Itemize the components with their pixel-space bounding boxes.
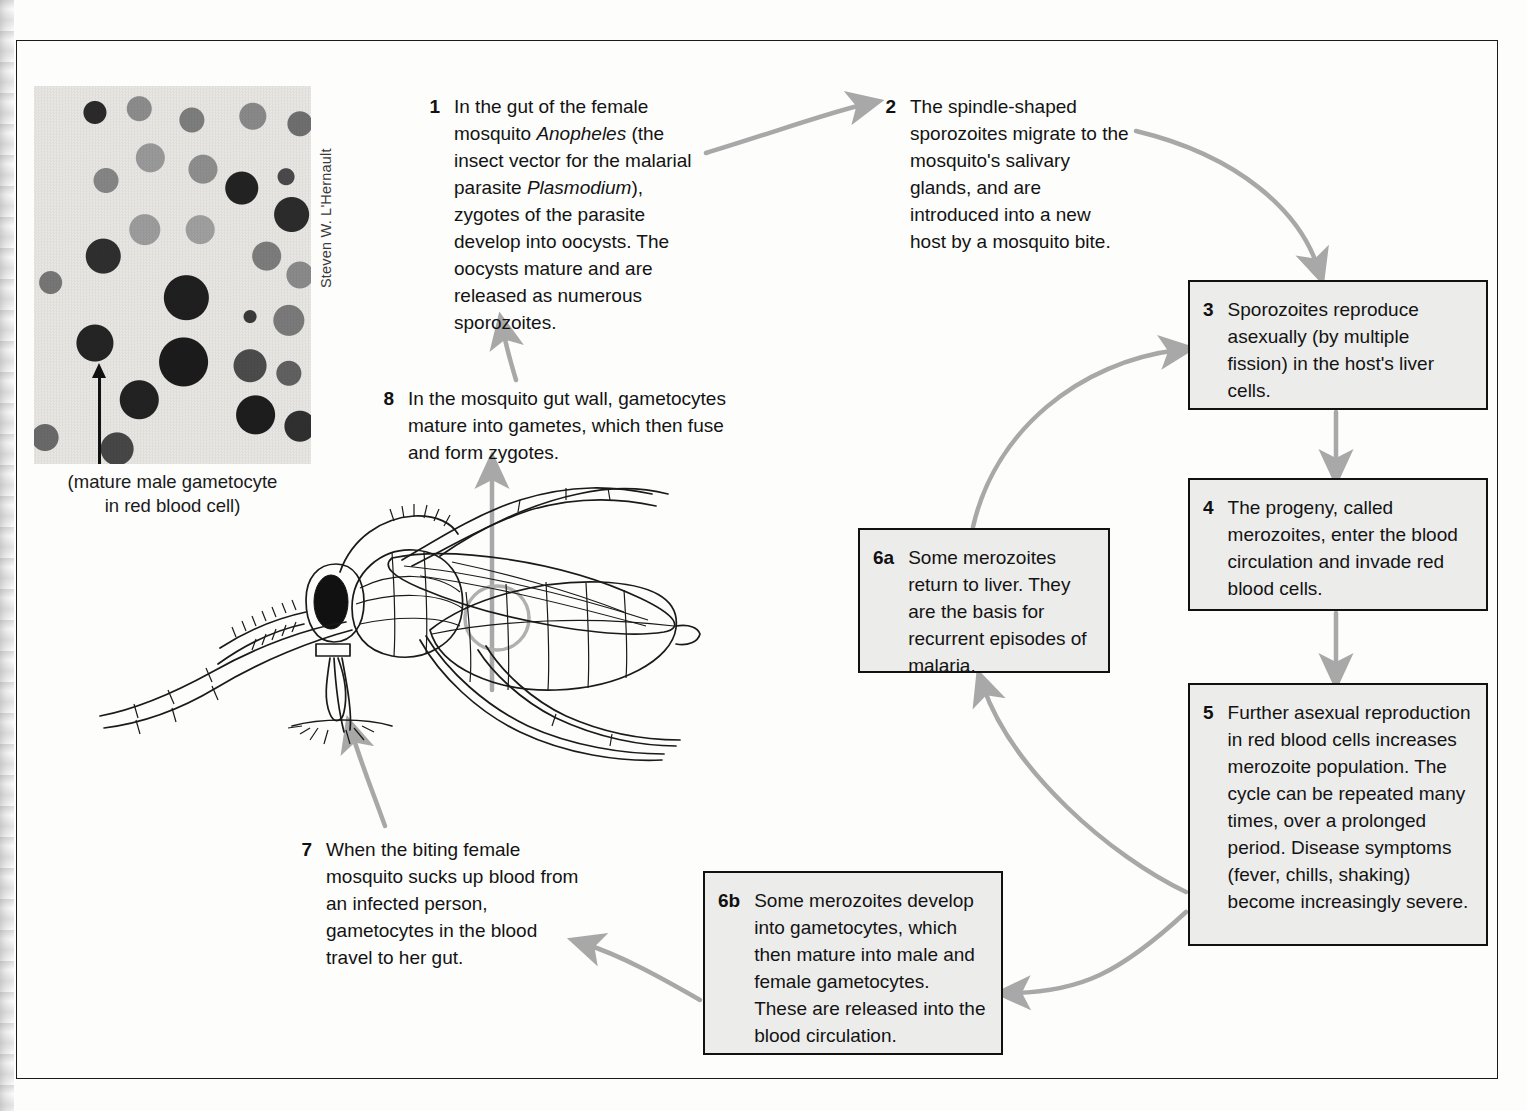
blood-smear-micrograph bbox=[34, 86, 311, 464]
step-5-text: Further asexual reproduction in red bloo… bbox=[1228, 699, 1472, 930]
micrograph-caption-line2: in red blood cell) bbox=[30, 494, 315, 518]
genus-anopheles: Anopheles bbox=[536, 123, 626, 144]
step-8-text: In the mosquito gut wall, gametocytes ma… bbox=[408, 385, 758, 466]
photo-credit: Steven W. L'Hernault bbox=[318, 118, 334, 288]
step-5-box: 5 Further asexual reproduction in red bl… bbox=[1188, 683, 1488, 946]
micrograph-caption-line1: (mature male gametocyte bbox=[30, 470, 315, 494]
step-3-number: 3 bbox=[1203, 296, 1214, 394]
step-2-number: 2 bbox=[880, 93, 896, 120]
step-7: 7 When the biting female mosquito sucks … bbox=[296, 836, 586, 971]
step-5-number: 5 bbox=[1203, 699, 1214, 930]
step-6b-box: 6b Some merozoites develop into gametocy… bbox=[703, 871, 1003, 1055]
step-3-box: 3 Sporozoites reproduce asexually (by mu… bbox=[1188, 280, 1488, 410]
step-8-number: 8 bbox=[378, 385, 394, 412]
step-2: 2 The spindle-shaped sporozoites migrate… bbox=[880, 93, 1130, 255]
step-3-text: Sporozoites reproduce asexually (by mult… bbox=[1228, 296, 1472, 394]
step-6b-text: Some merozoites develop into gametocytes… bbox=[754, 887, 987, 1039]
step-7-text: When the biting female mosquito sucks up… bbox=[326, 836, 586, 971]
step-4-text: The progeny, called merozoites, enter th… bbox=[1228, 494, 1472, 595]
scan-spine-shadow bbox=[0, 0, 16, 1111]
step-6a-box: 6a Some merozoites return to liver. They… bbox=[858, 528, 1110, 673]
scan-spine-texture bbox=[0, 0, 14, 1111]
figure-page: Steven W. L'Hernault (mature male gameto… bbox=[0, 0, 1527, 1111]
gametocyte-pointer-arrow bbox=[98, 376, 101, 464]
step-1-text: In the gut of the female mosquito Anophe… bbox=[454, 93, 694, 336]
step-6a-number: 6a bbox=[873, 544, 894, 657]
step-4-number: 4 bbox=[1203, 494, 1214, 595]
step-1-number: 1 bbox=[424, 93, 440, 120]
genus-plasmodium: Plasmodium bbox=[527, 177, 632, 198]
step-6b-number: 6b bbox=[718, 887, 740, 1039]
step-8: 8 In the mosquito gut wall, gametocytes … bbox=[378, 385, 758, 466]
micrograph-grain-texture bbox=[34, 86, 311, 464]
step-7-number: 7 bbox=[296, 836, 312, 863]
step-4-box: 4 The progeny, called merozoites, enter … bbox=[1188, 478, 1488, 611]
step-6a-text: Some merozoites return to liver. They ar… bbox=[908, 544, 1094, 657]
step-2-text: The spindle-shaped sporozoites migrate t… bbox=[910, 93, 1130, 255]
step-1: 1 In the gut of the female mosquito Anop… bbox=[424, 93, 694, 336]
micrograph-caption: (mature male gametocyte in red blood cel… bbox=[30, 470, 315, 518]
